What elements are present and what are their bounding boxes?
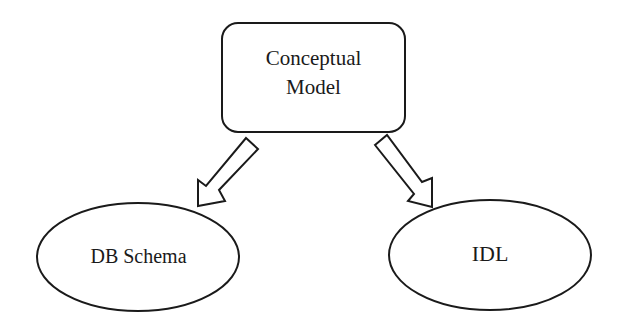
db-schema-label: DB Schema (37, 243, 240, 269)
conceptual-model-label: Conceptual Model (222, 44, 405, 102)
idl-label: IDL (389, 240, 591, 268)
conceptual-model-label-line1: Conceptual (222, 44, 405, 73)
arrow-to-idl-icon (375, 135, 432, 207)
arrow-to-db-schema-icon (198, 138, 258, 206)
conceptual-model-label-line2: Model (222, 73, 405, 102)
